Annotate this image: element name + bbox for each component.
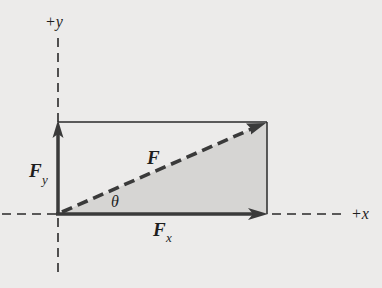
y-axis-label-text: +y xyxy=(45,13,64,31)
x-axis-label: +x xyxy=(351,205,369,222)
fy-label: F y xyxy=(28,160,48,187)
fy-label-main: F xyxy=(28,160,42,181)
fx-label: F x xyxy=(152,219,172,245)
fy-label-subscript: y xyxy=(40,172,48,187)
fx-label-main: F xyxy=(152,219,166,240)
fx-label-subscript: x xyxy=(165,230,172,245)
angle-label: θ xyxy=(111,193,119,210)
vector-components-diagram: +y +x F y F θ F x xyxy=(0,0,382,288)
resultant-label: F xyxy=(146,147,160,168)
